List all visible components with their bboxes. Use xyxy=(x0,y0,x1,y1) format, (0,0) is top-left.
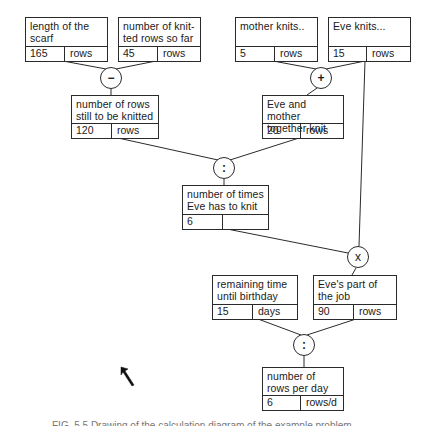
box-value-row: 6 xyxy=(183,214,268,229)
box-value-row: 15 days xyxy=(213,304,297,319)
box-value: 20 xyxy=(263,124,301,138)
box-scarf-length: length of the scarf 165 rows xyxy=(25,17,108,62)
box-value-row: 120 rows xyxy=(72,123,158,138)
box-unit: rows xyxy=(367,47,410,61)
box-value-row: 45 rows xyxy=(119,46,200,61)
box-together-knit: Eve and mother together knit 20 rows xyxy=(262,95,344,139)
box-value-row: 90 rows xyxy=(314,304,396,319)
box-label: number of rows per day xyxy=(267,370,340,394)
box-value-row: 6 rows/d xyxy=(263,395,343,410)
box-value: 15 xyxy=(329,47,367,61)
box-value-row: 15 rows xyxy=(329,46,410,61)
box-value-row: 5 rows xyxy=(236,46,317,61)
box-label: mother knits.. xyxy=(240,20,314,32)
box-label: length of the scarf xyxy=(30,20,104,44)
box-label: Eve knits... xyxy=(333,20,407,32)
box-unit: rows xyxy=(301,124,343,138)
box-label: number of times Eve has to knit xyxy=(187,188,265,212)
box-unit: rows xyxy=(354,305,396,319)
box-unit: rows xyxy=(65,47,107,61)
box-unit: rows xyxy=(112,124,158,138)
box-mother-knits: mother knits.. 5 rows xyxy=(235,17,318,62)
box-times-eve-knits: number of times Eve has to knit 6 xyxy=(182,185,269,230)
divide-operator-2: : xyxy=(293,334,315,356)
plus-operator: + xyxy=(310,67,332,89)
box-unit: rows xyxy=(158,47,200,61)
box-value: 165 xyxy=(26,47,65,61)
box-value-row: 165 rows xyxy=(26,46,107,61)
box-unit: rows/d xyxy=(301,396,343,410)
mouse-cursor-icon xyxy=(118,364,140,388)
box-value: 120 xyxy=(72,124,112,138)
box-label: number of knit-ted rows so far xyxy=(123,20,197,44)
box-value-row: 20 rows xyxy=(263,123,343,138)
figure-caption: FIG. 5.5 Drawing of the calculation diag… xyxy=(52,419,352,426)
box-value: 90 xyxy=(314,305,354,319)
box-knitted-so-far: number of knit-ted rows so far 45 rows xyxy=(118,17,201,62)
divide-operator: : xyxy=(213,157,235,179)
box-value: 5 xyxy=(236,47,275,61)
box-label: number of rows still to be knitted xyxy=(76,98,155,122)
box-value: 6 xyxy=(263,396,301,410)
box-unit: days xyxy=(253,305,297,319)
box-unit: rows xyxy=(275,47,317,61)
multiply-operator: x xyxy=(347,246,369,268)
box-value: 6 xyxy=(183,215,223,229)
box-remaining-time: remaining time until birthday 15 days xyxy=(212,275,298,320)
minus-operator: − xyxy=(100,67,122,89)
box-eve-knits: Eve knits... 15 rows xyxy=(328,17,411,62)
box-value: 15 xyxy=(213,305,253,319)
box-label: remaining time until birthday xyxy=(217,278,294,302)
box-label: Eve's part of the job xyxy=(318,278,393,302)
box-rows-remaining: number of rows still to be knitted 120 r… xyxy=(71,95,159,139)
box-eves-part: Eve's part of the job 90 rows xyxy=(313,275,397,320)
box-rows-per-day: number of rows per day 6 rows/d xyxy=(262,367,344,411)
box-unit xyxy=(223,215,268,229)
box-value: 45 xyxy=(119,47,158,61)
